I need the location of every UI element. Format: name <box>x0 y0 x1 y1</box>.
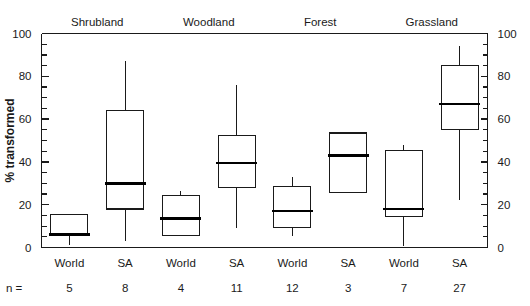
category-label: World <box>54 257 84 269</box>
box-shrubland-world <box>49 214 90 245</box>
box-iqr <box>330 133 367 193</box>
y-tick-label-right: 100 <box>498 28 517 40</box>
y-tick-label-left: 40 <box>19 156 32 168</box>
box-forest-world <box>272 177 313 236</box>
n-value: 12 <box>286 282 299 294</box>
box-forest-sa <box>328 133 369 193</box>
y-tick-label-right: 80 <box>498 70 511 82</box>
y-tick-label-right: 20 <box>498 199 511 211</box>
box-grassland-sa <box>439 46 480 200</box>
box-woodland-world <box>160 191 201 236</box>
n-value: 4 <box>178 282 185 294</box>
box-woodland-sa <box>216 85 257 228</box>
axes <box>42 34 488 248</box>
box-grassland-world <box>383 145 424 247</box>
n-value: 11 <box>231 282 243 294</box>
category-label: World <box>389 257 419 269</box>
y-tick-label-right: 60 <box>498 113 511 125</box>
boxplot-canvas: 002020404060608080100100% transformedWor… <box>0 0 530 306</box>
group-label-woodland: Woodland <box>183 16 235 28</box>
box-iqr <box>162 195 199 236</box>
y-axis-title: % transformed <box>3 98 17 182</box>
box-iqr <box>385 150 422 216</box>
n-value: 5 <box>66 282 72 294</box>
y-tick-label-right: 40 <box>498 156 511 168</box>
category-label: SA <box>452 257 468 269</box>
category-label: World <box>166 257 196 269</box>
axis-labels: 002020404060608080100100% transformedWor… <box>3 16 517 294</box>
y-tick-label-left: 60 <box>19 113 32 125</box>
box-iqr <box>51 214 88 234</box>
y-tick-label-left: 100 <box>12 28 31 40</box>
category-label: SA <box>229 257 245 269</box>
box-iqr <box>274 187 311 228</box>
y-tick-label-left: 20 <box>19 199 32 211</box>
y-tick-label-right: 0 <box>498 242 504 254</box>
box-shrubland-sa <box>105 61 146 241</box>
n-value: 27 <box>453 282 466 294</box>
n-value: 3 <box>345 282 351 294</box>
group-label-grassland: Grassland <box>406 16 458 28</box>
boxplot-figure: 002020404060608080100100% transformedWor… <box>0 0 530 306</box>
group-label-shrubland: Shrubland <box>71 16 123 28</box>
y-tick-label-left: 80 <box>19 70 32 82</box>
n-value: 7 <box>401 282 407 294</box>
category-label: SA <box>340 257 356 269</box>
box-iqr <box>218 135 255 187</box>
box-plots <box>49 46 480 246</box>
box-iqr <box>441 66 478 130</box>
box-iqr <box>107 111 144 209</box>
n-value: 8 <box>122 282 128 294</box>
category-label: World <box>277 257 307 269</box>
group-label-forest: Forest <box>304 16 337 28</box>
n-prefix-label: n = <box>6 282 23 294</box>
category-label: SA <box>117 257 133 269</box>
y-tick-label-left: 0 <box>25 242 31 254</box>
